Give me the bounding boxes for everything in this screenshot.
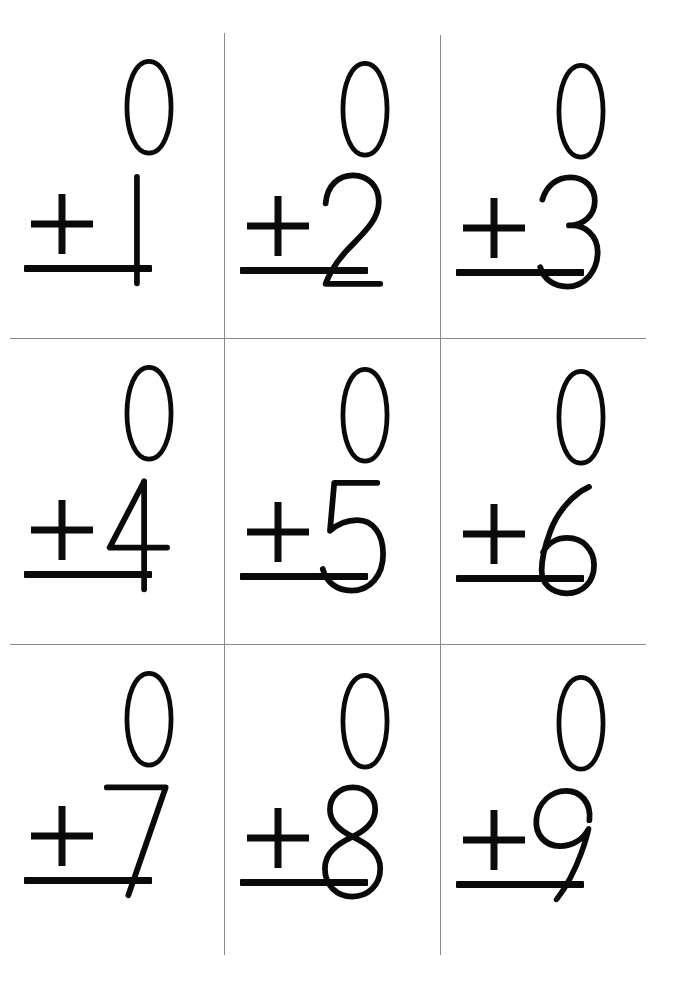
plus-operator-icon xyxy=(242,802,314,874)
flashcard-cell xyxy=(442,40,660,340)
top-addend xyxy=(118,54,180,158)
answer-rule xyxy=(24,571,152,578)
flashcard-cell xyxy=(226,38,444,338)
addition-problem xyxy=(442,652,660,952)
top-addend xyxy=(118,666,180,770)
answer-rule xyxy=(456,575,584,582)
top-addend xyxy=(550,670,612,774)
top-addend xyxy=(550,58,612,162)
addition-problem xyxy=(10,648,228,948)
answer-blank[interactable] xyxy=(240,276,368,332)
answer-blank[interactable] xyxy=(24,274,152,330)
plus-operator-icon xyxy=(26,800,98,872)
flashcard-sheet xyxy=(0,0,683,985)
answer-blank[interactable] xyxy=(240,888,368,944)
answer-blank[interactable] xyxy=(456,278,584,334)
flashcard-cell xyxy=(442,652,660,952)
answer-blank[interactable] xyxy=(456,890,584,946)
flashcard-cell xyxy=(442,346,660,646)
plus-operator-icon xyxy=(458,804,530,876)
answer-rule xyxy=(240,267,368,274)
answer-blank[interactable] xyxy=(456,584,584,640)
answer-blank[interactable] xyxy=(24,580,152,636)
answer-rule xyxy=(456,269,584,276)
top-addend xyxy=(334,668,396,772)
addition-problem xyxy=(226,38,444,338)
answer-blank[interactable] xyxy=(24,886,152,942)
flashcard-cell xyxy=(226,344,444,644)
answer-rule xyxy=(24,265,152,272)
plus-operator-icon xyxy=(26,188,98,260)
top-addend xyxy=(334,362,396,466)
answer-rule xyxy=(240,573,368,580)
flashcard-cell xyxy=(10,342,228,642)
addition-problem xyxy=(10,342,228,642)
answer-rule xyxy=(456,881,584,888)
flashcard-cell xyxy=(226,650,444,950)
answer-rule xyxy=(24,877,152,884)
plus-operator-icon xyxy=(458,192,530,264)
addition-problem xyxy=(10,36,228,336)
plus-operator-icon xyxy=(242,190,314,262)
top-addend xyxy=(550,364,612,468)
top-addend xyxy=(334,56,396,160)
plus-operator-icon xyxy=(242,496,314,568)
addition-problem xyxy=(442,346,660,646)
plus-operator-icon xyxy=(26,494,98,566)
plus-operator-icon xyxy=(458,498,530,570)
addition-problem xyxy=(226,344,444,644)
addition-problem xyxy=(226,650,444,950)
addition-problem xyxy=(442,40,660,340)
answer-blank[interactable] xyxy=(240,582,368,638)
flashcard-cell xyxy=(10,648,228,948)
answer-rule xyxy=(240,879,368,886)
top-addend xyxy=(118,360,180,464)
flashcard-cell xyxy=(10,36,228,336)
